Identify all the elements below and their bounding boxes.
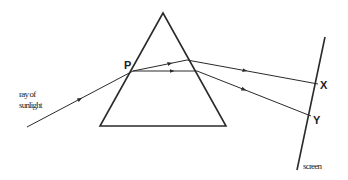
lower-ray-outside-2 xyxy=(244,90,311,117)
incident-label-line2: sunlight xyxy=(19,100,43,110)
upper-ray-outside-2 xyxy=(245,71,318,84)
screen-line xyxy=(297,37,325,170)
prism xyxy=(100,13,226,126)
upper-ray-outside xyxy=(187,60,245,71)
prism-dispersion-diagram: ray of sunlight P X Y screen xyxy=(0,0,348,180)
incident-label-line1: ray of xyxy=(19,89,36,99)
incident-ray-segment xyxy=(80,71,133,99)
point-y-label: Y xyxy=(313,114,321,126)
upper-ray-inside xyxy=(133,64,170,72)
point-p-label: P xyxy=(124,59,131,71)
screen-label: screen xyxy=(303,161,322,171)
point-x-label: X xyxy=(320,79,328,91)
upper-ray-inside-2 xyxy=(170,60,187,64)
